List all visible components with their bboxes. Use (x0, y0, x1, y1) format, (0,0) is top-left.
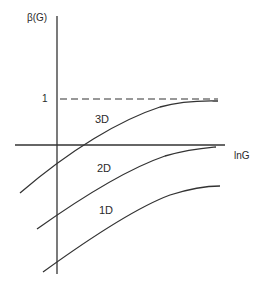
diagram-canvas (0, 0, 266, 286)
curve-3d (20, 101, 218, 193)
curve-label-2d: 2D (97, 163, 111, 174)
y-axis-label: β(G) (27, 13, 47, 23)
curve-1d (43, 186, 220, 272)
curve-label-3d: 3D (95, 114, 109, 125)
x-axis-label: lnG (234, 151, 250, 161)
reference-level-label: 1 (42, 94, 48, 104)
curve-label-1d: 1D (99, 205, 113, 216)
